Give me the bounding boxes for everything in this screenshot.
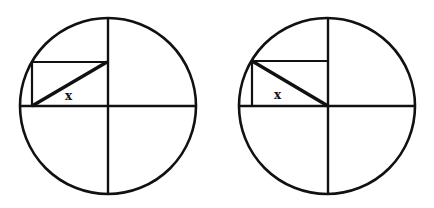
diagram-canvas: x x: [0, 0, 434, 208]
right-figure: x: [239, 18, 415, 194]
left-x-label: x: [65, 89, 73, 103]
left-figure: x: [20, 18, 196, 194]
right-diagonal: [252, 61, 328, 106]
right-x-label: x: [274, 88, 282, 102]
